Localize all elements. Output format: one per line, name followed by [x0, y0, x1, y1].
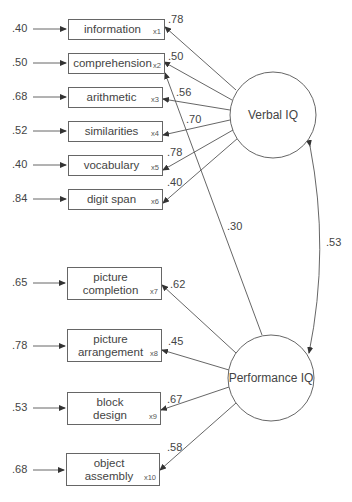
- loading-x7: .62: [170, 278, 185, 290]
- factor-label: Performance IQ: [229, 371, 314, 385]
- error-x10: .68: [12, 463, 27, 475]
- indicator-label: digit span: [87, 193, 144, 206]
- error-x3: .68: [12, 90, 27, 102]
- error-x2: .50: [12, 56, 27, 68]
- indicator-label-line1: picture: [93, 333, 136, 346]
- indicator-id: x8: [150, 347, 158, 360]
- indicator-label-line2: design: [93, 409, 135, 422]
- indicator-picture-arrangement: picture arrangement x8: [67, 329, 162, 362]
- loading-x10: .58: [167, 441, 182, 453]
- indicator-information: information x1: [68, 19, 165, 40]
- factor-label: Verbal IQ: [248, 108, 298, 122]
- path-diagram-lines: [0, 0, 352, 502]
- indicator-label: information: [84, 23, 149, 36]
- loading-x6: .40: [167, 176, 182, 188]
- factor-verbal-iq: Verbal IQ: [233, 108, 313, 122]
- indicator-label-line2: arrangement: [78, 346, 151, 359]
- loading-x4: .70: [186, 113, 201, 125]
- error-x4: .52: [12, 124, 27, 136]
- error-x7: .65: [12, 276, 27, 288]
- indicator-digit-span: digit span x6: [68, 189, 163, 210]
- loading-x9: .67: [167, 393, 182, 405]
- indicator-label-line1: picture: [93, 271, 136, 284]
- indicator-id: x9: [149, 410, 157, 423]
- error-x6: .84: [12, 192, 27, 204]
- indicator-label: comprehension: [73, 57, 160, 70]
- loading-x1: .78: [168, 13, 183, 25]
- loading-x2: .50: [168, 50, 183, 62]
- indicator-label-line1: block: [97, 396, 132, 409]
- indicator-arithmetic: arithmetic x3: [68, 87, 163, 108]
- indicator-picture-completion: picture completion x7: [67, 267, 162, 300]
- error-x8: .78: [12, 339, 27, 351]
- error-x1: .40: [12, 22, 27, 34]
- loading-x5: .78: [167, 146, 182, 158]
- indicator-id: x5: [151, 161, 159, 174]
- error-x9: .53: [12, 401, 27, 413]
- cross-loading-label: .30: [227, 220, 242, 232]
- indicator-id: x1: [153, 25, 161, 38]
- indicator-label-line2: assembly: [85, 470, 142, 483]
- indicator-label: similarities: [85, 125, 147, 138]
- indicator-block-design: block design x9: [67, 392, 161, 425]
- error-x5: .40: [12, 158, 27, 170]
- indicator-id: x7: [150, 285, 158, 298]
- indicator-label-line1: object: [94, 457, 133, 470]
- indicator-id: x6: [151, 195, 159, 208]
- indicator-comprehension: comprehension x2: [68, 53, 165, 74]
- indicator-id: x4: [151, 127, 159, 140]
- indicator-id: x2: [153, 59, 161, 72]
- factor-performance-iq: Performance IQ: [226, 371, 316, 385]
- indicator-object-assembly: object assembly x10: [66, 453, 160, 486]
- indicator-id: x3: [151, 93, 159, 106]
- indicator-id: x10: [144, 471, 156, 484]
- indicator-label-line2: completion: [83, 284, 147, 297]
- indicator-label: arithmetic: [87, 91, 145, 104]
- indicator-similarities: similarities x4: [68, 121, 163, 142]
- loading-x8: .45: [168, 335, 183, 347]
- loading-x3: .56: [176, 86, 191, 98]
- indicator-vocabulary: vocabulary x5: [68, 155, 163, 176]
- factor-covariance-label: .53: [326, 236, 341, 248]
- indicator-label: vocabulary: [84, 159, 148, 172]
